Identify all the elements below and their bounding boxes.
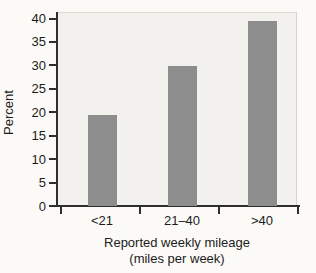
y-axis-tick-15	[49, 135, 57, 137]
x-axis-tick-0	[60, 207, 62, 214]
y-axis-title: Percent	[1, 63, 16, 163]
bar-3	[248, 21, 277, 206]
y-axis-tick-label-15: 15	[20, 129, 46, 142]
y-axis-tick-35	[49, 41, 57, 43]
y-axis-tick-label-0: 0	[20, 200, 46, 213]
bar-chart-figure: Percent Reported weekly mileage (miles p…	[0, 0, 316, 273]
y-axis-tick-5	[49, 182, 57, 184]
x-axis-title: Reported weekly mileage	[57, 235, 297, 250]
x-category-label-3: >40	[232, 213, 292, 228]
y-axis-tick-30	[49, 64, 57, 66]
y-axis-tick-20	[49, 111, 57, 113]
y-axis-tick-label-40: 40	[20, 12, 46, 25]
y-axis-tick-25	[49, 88, 57, 90]
x-axis-tick-2	[218, 207, 220, 214]
bar-2	[168, 66, 197, 206]
y-axis-tick-label-25: 25	[20, 82, 46, 95]
y-axis-tick-10	[49, 158, 57, 160]
bar-1	[88, 115, 117, 206]
x-category-label-1: <21	[72, 213, 132, 228]
y-axis-tick-label-20: 20	[20, 106, 46, 119]
y-axis-tick-0	[49, 205, 57, 207]
y-axis-tick-label-5: 5	[20, 176, 46, 189]
x-axis-tick-1	[139, 207, 141, 214]
y-axis-tick-40	[49, 18, 57, 20]
x-category-label-2: 21–40	[152, 213, 212, 228]
y-axis-tick-label-30: 30	[20, 59, 46, 72]
x-axis-title-units: (miles per week)	[57, 251, 297, 266]
y-axis-tick-label-35: 35	[20, 35, 46, 48]
y-axis-tick-label-10: 10	[20, 153, 46, 166]
x-axis-tick-3	[297, 207, 299, 214]
